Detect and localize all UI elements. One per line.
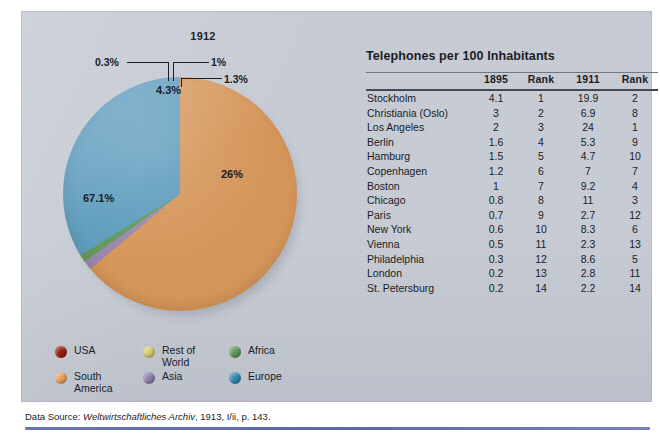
row-rank-1895: 5: [518, 149, 564, 164]
table-row: Chicago0.88113: [366, 193, 658, 208]
row-value-1911: 8.6: [564, 252, 612, 267]
col-header-city: [366, 73, 474, 91]
row-rank-1911: 7: [612, 164, 658, 179]
pie-chart: [39, 59, 319, 329]
row-value-1895: 4.1: [474, 90, 518, 106]
row-city: Paris: [366, 208, 474, 223]
source-suffix: , 1913, I/ii, p. 143.: [195, 411, 271, 422]
row-city: St. Petersburg: [366, 281, 474, 296]
table-row: Stockholm4.1119.92: [366, 90, 658, 106]
table-row: Philadelphia0.3128.65: [366, 252, 658, 267]
legend-label-south-america: SouthAmerica: [74, 371, 113, 394]
legend-swatch-africa: [229, 346, 241, 358]
legend-item-south-america: SouthAmerica: [55, 371, 143, 397]
row-city: Boston: [366, 179, 474, 194]
row-city: Stockholm: [366, 90, 474, 106]
table-title: Telephones per 100 Inhabitants: [366, 49, 658, 63]
row-city: Los Angeles: [366, 120, 474, 135]
col-header-rank-1911: Rank: [612, 73, 658, 91]
row-rank-1911: 3: [612, 193, 658, 208]
row-rank-1911: 1: [612, 120, 658, 135]
figure-page: 1912 67.1% 26% 4.3% 0.3% 1% 1.3%: [0, 0, 660, 447]
table-row: Boston179.24: [366, 179, 658, 194]
row-value-1911: 2.3: [564, 237, 612, 252]
row-city: Chicago: [366, 193, 474, 208]
row-value-1895: 1.2: [474, 164, 518, 179]
table-row: St. Petersburg0.2142.214: [366, 281, 658, 296]
row-value-1895: 0.3: [474, 252, 518, 267]
row-rank-1911: 4: [612, 179, 658, 194]
row-rank-1895: 10: [518, 222, 564, 237]
table-row: Los Angeles23241: [366, 120, 658, 135]
telephones-table: 1895 Rank 1911 Rank Stockholm4.1119.92Ch…: [366, 72, 658, 295]
row-value-1911: 19.9: [564, 90, 612, 106]
source-prefix: Data Source:: [25, 411, 83, 422]
table-row: Christiania (Oslo)326.98: [366, 106, 658, 121]
row-city: Hamburg: [366, 149, 474, 164]
row-rank-1895: 13: [518, 266, 564, 281]
table-row: Hamburg1.554.710: [366, 149, 658, 164]
row-value-1895: 3: [474, 106, 518, 121]
legend-item-usa: USA: [55, 345, 143, 371]
data-source-caption: Data Source: Weltwirtschaftliches Archiv…: [25, 411, 271, 422]
row-rank-1895: 8: [518, 193, 564, 208]
row-city: Berlin: [366, 135, 474, 150]
table-row: Berlin1.645.39: [366, 135, 658, 150]
row-rank-1895: 11: [518, 237, 564, 252]
pie-chart-title: 1912: [173, 30, 233, 42]
row-rank-1911: 9: [612, 135, 658, 150]
legend-swatch-south-america: [55, 372, 67, 384]
row-value-1911: 8.3: [564, 222, 612, 237]
legend-swatch-asia: [143, 372, 155, 384]
row-rank-1895: 4: [518, 135, 564, 150]
row-value-1911: 24: [564, 120, 612, 135]
scanned-figure-panel: 1912 67.1% 26% 4.3% 0.3% 1% 1.3%: [21, 11, 652, 402]
legend-swatch-europe: [229, 372, 241, 384]
pie-legend: USA Rest ofWorld Africa SouthAmerica Asi…: [55, 345, 320, 397]
table-body: Stockholm4.1119.92Christiania (Oslo)326.…: [366, 90, 658, 295]
row-city: New York: [366, 222, 474, 237]
row-value-1911: 2.7: [564, 208, 612, 223]
table-header-row: 1895 Rank 1911 Rank: [366, 73, 658, 91]
row-rank-1895: 14: [518, 281, 564, 296]
row-value-1911: 6.9: [564, 106, 612, 121]
row-rank-1895: 7: [518, 179, 564, 194]
legend-item-rest-of-world: Rest ofWorld: [143, 345, 229, 371]
row-rank-1911: 11: [612, 266, 658, 281]
row-city: Christiania (Oslo): [366, 106, 474, 121]
row-city: London: [366, 266, 474, 281]
table-row: London0.2132.811: [366, 266, 658, 281]
col-header-1895: 1895: [474, 73, 518, 91]
table-row: Copenhagen1.2677: [366, 164, 658, 179]
row-rank-1911: 2: [612, 90, 658, 106]
row-value-1911: 11: [564, 193, 612, 208]
row-value-1895: 1.5: [474, 149, 518, 164]
row-rank-1911: 8: [612, 106, 658, 121]
row-city: Vienna: [366, 237, 474, 252]
legend-item-asia: Asia: [143, 371, 229, 397]
source-journal: Weltwirtschaftliches Archiv: [83, 411, 195, 422]
row-value-1895: 1: [474, 179, 518, 194]
row-value-1911: 2.8: [564, 266, 612, 281]
pie-label-africa: 1%: [211, 56, 226, 68]
row-rank-1911: 12: [612, 208, 658, 223]
row-value-1895: 0.7: [474, 208, 518, 223]
pie-label-usa: 0.3%: [95, 56, 119, 68]
legend-swatch-rest-of-world: [143, 346, 155, 358]
row-rank-1911: 10: [612, 149, 658, 164]
row-value-1911: 5.3: [564, 135, 612, 150]
table-row: Paris0.792.712: [366, 208, 658, 223]
table-header: 1895 Rank 1911 Rank: [366, 73, 658, 91]
legend-item-africa: Africa: [229, 345, 319, 371]
bottom-rule: [25, 427, 650, 430]
telephones-table-block: Telephones per 100 Inhabitants 1895 Rank…: [366, 49, 658, 295]
legend-swatch-usa: [55, 346, 67, 358]
row-rank-1911: 5: [612, 252, 658, 267]
row-rank-1895: 2: [518, 106, 564, 121]
pie-label-europe: 26%: [221, 168, 243, 180]
legend-label-usa: USA: [74, 345, 96, 357]
row-rank-1895: 12: [518, 252, 564, 267]
row-value-1895: 0.5: [474, 237, 518, 252]
row-value-1895: 0.2: [474, 281, 518, 296]
row-value-1895: 1.6: [474, 135, 518, 150]
